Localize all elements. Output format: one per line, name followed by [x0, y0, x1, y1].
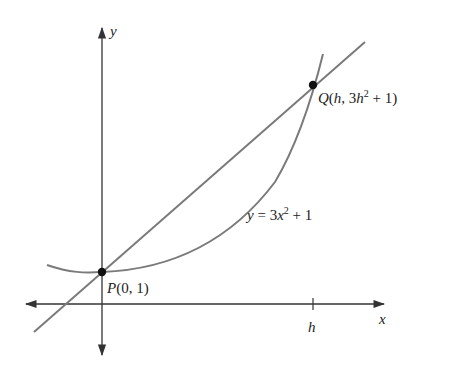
eq-equals: = 3	[254, 207, 277, 223]
point-p-name: P	[106, 280, 116, 296]
y-axis-label: y	[108, 23, 117, 39]
point-p	[98, 268, 106, 276]
point-q-label: Q(h, 3h2 + 1)	[318, 88, 397, 107]
tick-label-h: h	[308, 319, 316, 335]
point-q-h1: h	[334, 90, 342, 106]
parabola-curve	[47, 54, 323, 272]
eq-tail: + 1	[289, 207, 312, 223]
x-axis-label: x	[378, 311, 386, 327]
point-p-coords: (0, 1)	[116, 280, 149, 297]
secant-diagram: y x h P(0, 1) Q(h, 3h2 + 1) y = 3x2 + 1	[0, 0, 450, 369]
point-q-h2: h	[356, 90, 364, 106]
curve-equation-label: y = 3x2 + 1	[245, 205, 312, 223]
point-q-mid: , 3	[341, 90, 356, 106]
point-q-tail: + 1)	[369, 90, 397, 107]
point-q	[309, 81, 317, 89]
point-q-name: Q	[318, 90, 329, 106]
eq-y: y	[245, 207, 254, 223]
point-p-label: P(0, 1)	[106, 280, 149, 297]
